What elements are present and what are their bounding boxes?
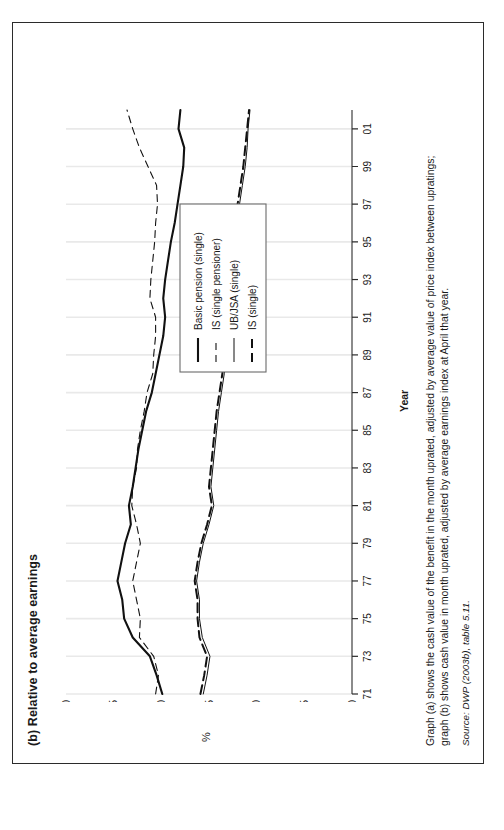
caption-line-1: Graph (a) shows the cash value of the be… bbox=[424, 40, 438, 746]
y-tick-label: 15 bbox=[204, 700, 215, 702]
x-tick-label: 97 bbox=[362, 198, 373, 210]
x-tick-label: 01 bbox=[362, 123, 373, 135]
y-tick-label: 5 bbox=[299, 700, 310, 702]
chart-canvas: 7173757779818385878991939597990105101520… bbox=[60, 102, 400, 702]
source-note: Source: DWP (2003b), table 5.11. bbox=[460, 600, 471, 746]
x-tick-label: 71 bbox=[362, 688, 373, 700]
x-tick-label: 73 bbox=[362, 650, 373, 662]
legend-label: UB/JSA (single) bbox=[229, 260, 240, 330]
x-tick-label: 99 bbox=[362, 161, 373, 173]
y-tick-label: 0 bbox=[347, 700, 358, 702]
line-chart: 7173757779818385878991939597990105101520… bbox=[60, 102, 360, 702]
series-line bbox=[117, 110, 184, 694]
y-tick-label: 30 bbox=[61, 700, 72, 702]
x-tick-label: 91 bbox=[362, 311, 373, 323]
x-tick-label: 89 bbox=[362, 349, 373, 361]
x-tick-label: 77 bbox=[362, 575, 373, 587]
series-line bbox=[197, 110, 250, 694]
y-tick-label: 10 bbox=[251, 700, 262, 702]
caption-line-2: graph (b) shows cash value in month upra… bbox=[438, 40, 452, 746]
x-tick-label: 95 bbox=[362, 236, 373, 248]
y-tick-label: 25 bbox=[108, 700, 119, 702]
x-tick-label: 87 bbox=[362, 387, 373, 399]
legend-label: IS (single pensioner) bbox=[211, 238, 222, 330]
y-tick-label: 20 bbox=[156, 700, 167, 702]
caption: Graph (a) shows the cash value of the be… bbox=[424, 40, 451, 746]
x-tick-label: 83 bbox=[362, 462, 373, 474]
figure-page: (b) Relative to average earnings % Year … bbox=[0, 0, 504, 830]
x-tick-label: 85 bbox=[362, 424, 373, 436]
series-line bbox=[127, 110, 158, 694]
x-tick-label: 75 bbox=[362, 613, 373, 625]
y-axis-label: % bbox=[200, 732, 212, 742]
legend-label: IS (single) bbox=[247, 285, 258, 330]
x-tick-label: 93 bbox=[362, 274, 373, 286]
x-tick-label: 81 bbox=[362, 500, 373, 512]
page-title: (b) Relative to average earnings bbox=[26, 554, 40, 746]
legend-label: Basic pension (single) bbox=[193, 232, 204, 330]
rotated-figure-stage: (b) Relative to average earnings % Year … bbox=[12, 22, 484, 764]
x-tick-label: 79 bbox=[362, 537, 373, 549]
